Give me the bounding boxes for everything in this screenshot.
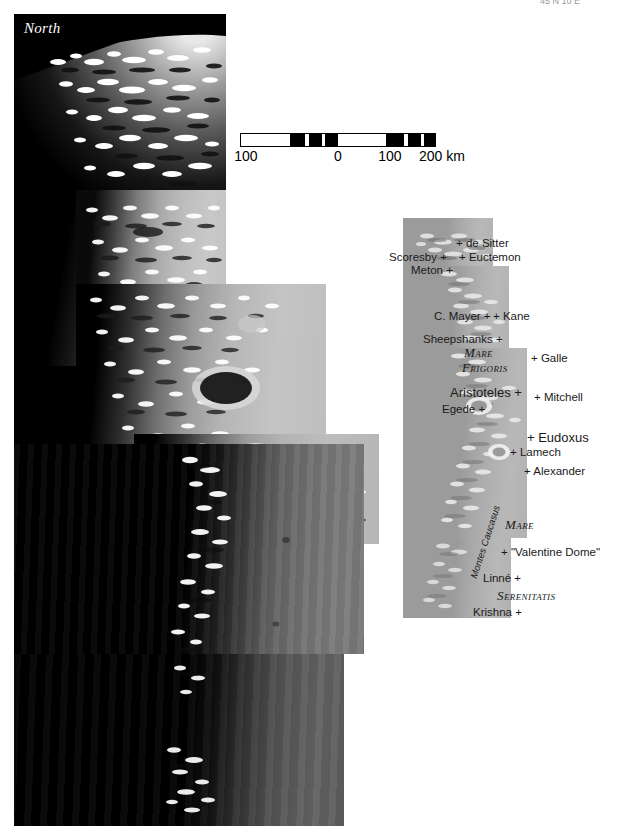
reference-map-inset (403, 218, 539, 618)
inset-terrain-speckle (403, 348, 527, 538)
scale-segment-7 (386, 134, 403, 146)
scale-segment-9 (408, 134, 422, 146)
scale-segment-0 (241, 134, 290, 146)
mosaic-tile-bottom (14, 654, 344, 826)
north-orientation-label: North (24, 20, 61, 37)
scale-tick-0: 100 (234, 148, 257, 164)
mosaic-notch-bottom-right (344, 654, 376, 826)
scale-segment-6 (338, 134, 387, 146)
scale-segment-5 (325, 134, 338, 146)
inset-terrain-speckle (403, 218, 493, 266)
scale-segment-3 (309, 134, 323, 146)
mosaic-tile-top (14, 14, 226, 190)
terrain-gradient (14, 14, 226, 190)
inset-terrain-speckle (403, 538, 511, 618)
inset-terrain-speckle (403, 266, 509, 348)
cropped-coordinate-value: 45 N 10 E (540, 0, 626, 6)
scale-tick-3: 200 km (419, 148, 465, 164)
scale-tick-1: 0 (334, 148, 342, 164)
scale-segment-1 (290, 134, 306, 146)
scale-bar: 1000100200 km (240, 133, 436, 166)
inset-panel-4 (403, 538, 511, 618)
scale-tick-2: 100 (378, 148, 401, 164)
mosaic-notch-right-upper (326, 284, 376, 434)
scale-segment-11 (424, 134, 435, 146)
scale-bar-labels: 1000100200 km (240, 148, 436, 166)
inset-panel-3 (403, 348, 527, 538)
cropped-coordinate-text: 45 N 10 E (540, 0, 626, 7)
inset-panel-1 (403, 218, 493, 266)
terrain-gradient (14, 654, 344, 826)
map-label-mitchell: + Mitchell (534, 392, 583, 404)
inset-panel-2 (403, 266, 509, 348)
scale-bar-segments (240, 133, 436, 147)
